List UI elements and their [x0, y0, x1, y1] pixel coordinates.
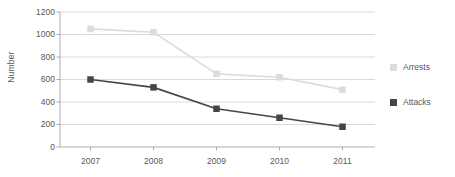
- x-tick-label-2011: 2011: [323, 157, 363, 166]
- x-tick-label-2007: 2007: [71, 157, 111, 166]
- legend-item-attacks[interactable]: Attacks: [390, 97, 455, 108]
- x-tick-label-2009: 2009: [197, 157, 237, 166]
- legend-swatch-attacks-icon: [390, 99, 397, 106]
- x-tick-label-2010: 2010: [260, 157, 300, 166]
- legend-label-attacks: Attacks: [403, 98, 431, 107]
- legend-swatch-arrests-icon: [390, 64, 397, 71]
- x-axis-tick-labels: 20072008200920102011: [0, 0, 455, 177]
- legend-label-arrests: Arrests: [403, 63, 430, 72]
- chart-legend: Arrests Attacks: [390, 62, 455, 132]
- line-chart: Number 020040060080010001200 20072008200…: [0, 0, 455, 177]
- x-tick-label-2008: 2008: [134, 157, 174, 166]
- legend-item-arrests[interactable]: Arrests: [390, 62, 455, 73]
